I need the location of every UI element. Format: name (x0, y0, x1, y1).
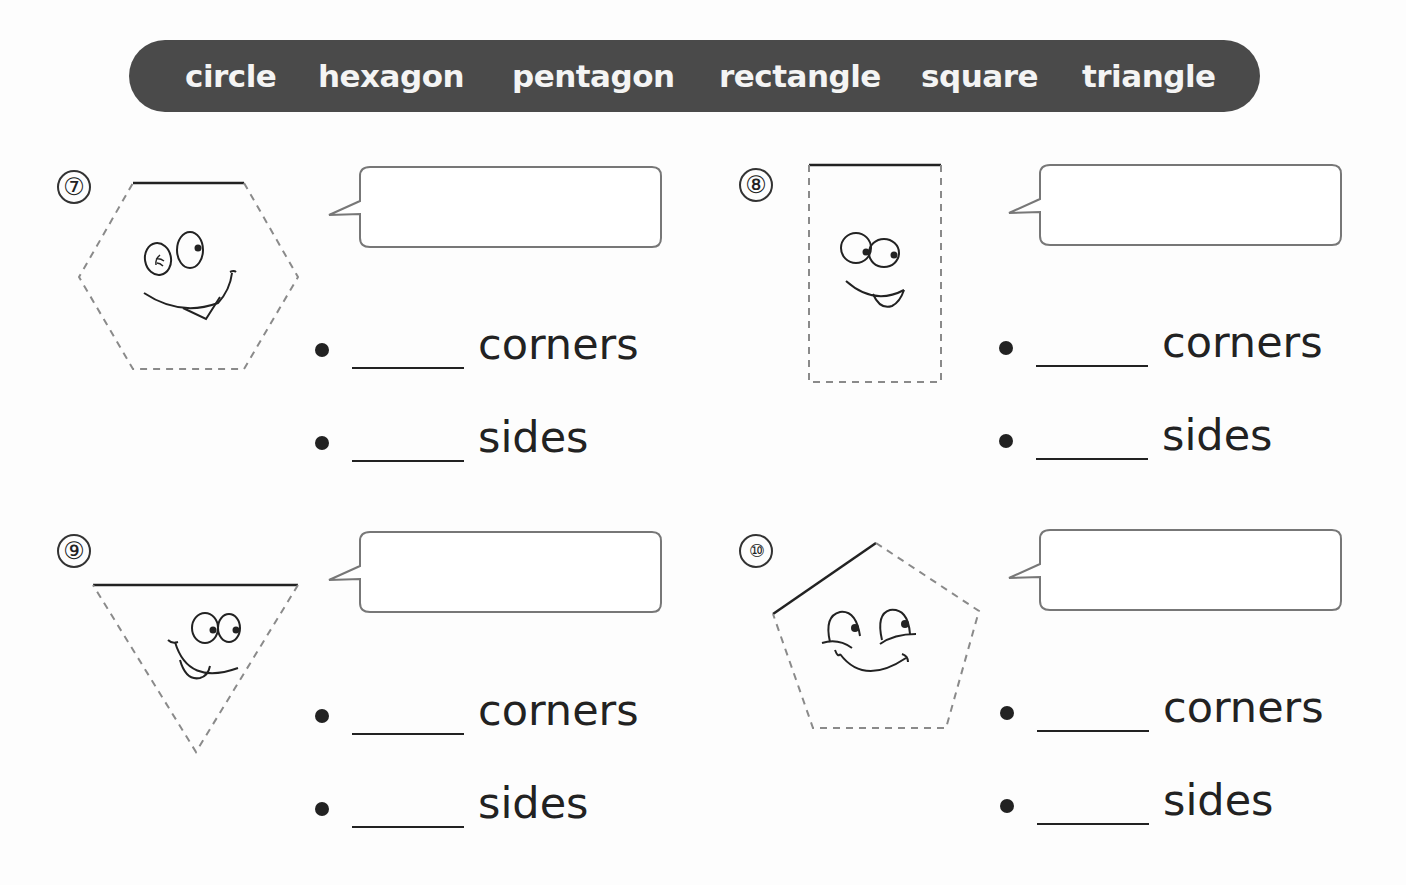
word-bank-item-circle: circle (185, 56, 276, 96)
triangle-face-icon (88, 578, 304, 758)
bullet-icon (1000, 706, 1014, 720)
word-bank-item-triangle: triangle (1082, 56, 1216, 96)
sides-label: sides (478, 412, 589, 462)
corners-row: corners (315, 323, 675, 373)
sides-input[interactable] (352, 424, 468, 462)
sides-row: sides (999, 414, 1359, 464)
sides-label: sides (1163, 775, 1274, 825)
shape-name-input[interactable] (366, 172, 660, 244)
sides-input[interactable] (1037, 787, 1153, 825)
bullet-icon (315, 343, 329, 357)
corners-label: corners (478, 319, 639, 369)
word-bank: circle hexagon pentagon rectangle square… (129, 40, 1260, 112)
sides-input[interactable] (352, 790, 468, 828)
word-bank-item-square: square (921, 56, 1038, 96)
hexagon-face-icon (70, 175, 310, 375)
word-bank-item-pentagon: pentagon (512, 56, 675, 96)
corners-input[interactable] (1037, 694, 1153, 732)
question-number: ⑧ (739, 168, 773, 202)
bullet-icon (315, 709, 329, 723)
sides-label: sides (1162, 410, 1273, 460)
pentagon-face-icon (766, 536, 986, 736)
corners-row: corners (999, 321, 1359, 371)
corners-label: corners (1163, 682, 1324, 732)
corners-label: corners (1162, 317, 1323, 367)
corners-input[interactable] (352, 697, 468, 735)
shape-name-input[interactable] (1046, 535, 1340, 607)
sides-input[interactable] (1036, 422, 1152, 460)
bullet-icon (315, 436, 329, 450)
bullet-icon (315, 802, 329, 816)
bullet-icon (999, 434, 1013, 448)
corners-label: corners (478, 685, 639, 735)
word-bank-item-rectangle: rectangle (719, 56, 881, 96)
corners-input[interactable] (1036, 329, 1152, 367)
sides-row: sides (1000, 779, 1360, 829)
corners-row: corners (315, 689, 675, 739)
word-bank-item-hexagon: hexagon (318, 56, 464, 96)
bullet-icon (1000, 799, 1014, 813)
bullet-icon (999, 341, 1013, 355)
rectangle-face-icon (804, 160, 946, 388)
shape-name-input[interactable] (366, 537, 660, 609)
sides-label: sides (478, 778, 589, 828)
corners-input[interactable] (352, 331, 468, 369)
shape-name-input[interactable] (1046, 170, 1340, 242)
question-number: ⑨ (57, 534, 91, 568)
sides-row: sides (315, 782, 675, 832)
corners-row: corners (1000, 686, 1360, 736)
sides-row: sides (315, 416, 675, 466)
